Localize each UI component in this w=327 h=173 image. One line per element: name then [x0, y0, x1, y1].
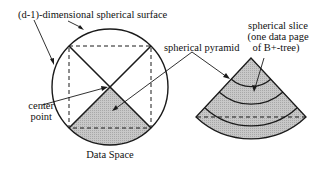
- label-surface: (d-1)-dimensional spherical surface: [18, 9, 167, 20]
- label-spherical-slice: spherical slice: [238, 20, 318, 31]
- label-btree: of B+-tree): [236, 42, 316, 53]
- label-spherical-pyramid: spherical pyramid: [164, 42, 240, 53]
- label-point: point: [14, 111, 52, 122]
- label-data-space: Data Space: [80, 149, 140, 160]
- label-center: center: [14, 100, 54, 111]
- spherical-pyramid-sector: [196, 58, 306, 139]
- label-one-data-page: (one data page: [238, 31, 318, 42]
